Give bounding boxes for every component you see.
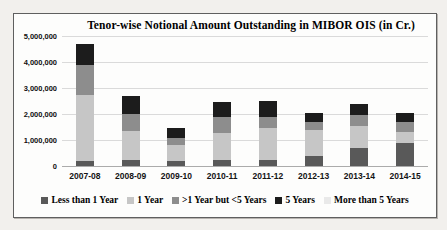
legend-label: >1 Year but <5 Years — [182, 195, 266, 205]
bar-segment — [167, 138, 185, 145]
x-axis-tick-label: 2012-13 — [291, 171, 337, 181]
bar-segment — [122, 96, 140, 114]
stacked-bar-2007-08 — [76, 44, 94, 166]
bar-slot — [337, 36, 383, 166]
legend-item: 5 Years — [275, 195, 314, 205]
bar-segment — [396, 143, 414, 166]
bar-series — [62, 36, 428, 166]
bar-slot — [245, 36, 291, 166]
bar-segment — [122, 114, 140, 131]
bar-segment — [76, 44, 94, 65]
bar-segment — [396, 132, 414, 142]
bar-segment — [122, 131, 140, 160]
bar-segment — [213, 133, 231, 160]
legend-swatch — [41, 197, 48, 204]
stacked-bar-2013-14 — [350, 104, 368, 166]
y-axis-tick-label: 5,000,000 — [15, 32, 57, 41]
bar-segment — [167, 128, 185, 137]
bar-segment — [259, 101, 277, 118]
x-axis-tick-label: 2011-12 — [245, 171, 291, 181]
chart-frame: Tenor-wise Notional Amount Outstanding i… — [13, 13, 437, 218]
stacked-bar-2008-09 — [122, 96, 140, 166]
legend: Less than 1 Year1 Year>1 Year but <5 Yea… — [18, 195, 432, 205]
y-axis-tick-label: 0 — [15, 162, 57, 171]
bar-segment — [76, 161, 94, 166]
bar-segment — [305, 122, 323, 130]
x-axis-tick-label: 2014-15 — [382, 171, 428, 181]
bar-slot — [199, 36, 245, 166]
legend-swatch — [324, 197, 331, 204]
x-axis-tick-label: 2007-08 — [62, 171, 108, 181]
x-axis-tick-label: 2009-10 — [154, 171, 200, 181]
legend-label: 5 Years — [285, 195, 314, 205]
x-axis-tick-label: 2010-11 — [199, 171, 245, 181]
stacked-bar-2012-13 — [305, 113, 323, 166]
chart-title: Tenor-wise Notional Amount Outstanding i… — [72, 19, 430, 31]
legend-label: Less than 1 Year — [51, 195, 118, 205]
y-axis-tick-label: 3,000,000 — [15, 84, 57, 93]
bar-segment — [213, 117, 231, 133]
legend-item: >1 Year but <5 Years — [172, 195, 266, 205]
x-axis-tick-label: 2013-14 — [337, 171, 383, 181]
bar-slot — [108, 36, 154, 166]
legend-item: More than 5 Years — [324, 195, 409, 205]
bar-slot — [62, 36, 108, 166]
y-axis-tick-label: 4,000,000 — [15, 58, 57, 67]
bar-segment — [259, 117, 277, 127]
stacked-bar-2010-11 — [213, 102, 231, 166]
bar-slot — [291, 36, 337, 166]
bar-segment — [396, 122, 414, 132]
legend-swatch — [275, 197, 282, 204]
bar-segment — [259, 128, 277, 160]
bar-segment — [259, 160, 277, 167]
bar-segment — [167, 161, 185, 166]
plot-area: 5,000,0004,000,0003,000,0002,000,0001,00… — [62, 36, 428, 167]
legend-label: More than 5 Years — [334, 195, 409, 205]
y-axis-tick-label: 2,000,000 — [15, 110, 57, 119]
bar-segment — [305, 130, 323, 156]
legend-item: Less than 1 Year — [41, 195, 118, 205]
legend-swatch — [172, 197, 179, 204]
bar-segment — [350, 126, 368, 148]
bar-segment — [350, 148, 368, 166]
bar-segment — [305, 156, 323, 166]
bar-segment — [167, 145, 185, 161]
stacked-bar-2011-12 — [259, 101, 277, 166]
bar-segment — [350, 115, 368, 125]
legend-item: 1 Year — [127, 195, 163, 205]
legend-swatch — [127, 197, 134, 204]
x-axis-tick-label: 2008-09 — [108, 171, 154, 181]
bar-segment — [305, 113, 323, 122]
bar-segment — [213, 160, 231, 167]
stacked-bar-2009-10 — [167, 128, 185, 166]
bar-slot — [154, 36, 200, 166]
bar-segment — [396, 113, 414, 122]
x-axis-labels: 2007-082008-092009-102010-112011-122012-… — [62, 171, 428, 181]
bar-segment — [122, 160, 140, 166]
legend-label: 1 Year — [137, 195, 163, 205]
bar-segment — [213, 102, 231, 118]
stacked-bar-2014-15 — [396, 113, 414, 166]
bar-slot — [382, 36, 428, 166]
bar-segment — [350, 104, 368, 116]
y-axis-tick-label: 1,000,000 — [15, 136, 57, 145]
bar-segment — [76, 65, 94, 95]
bar-segment — [76, 95, 94, 161]
